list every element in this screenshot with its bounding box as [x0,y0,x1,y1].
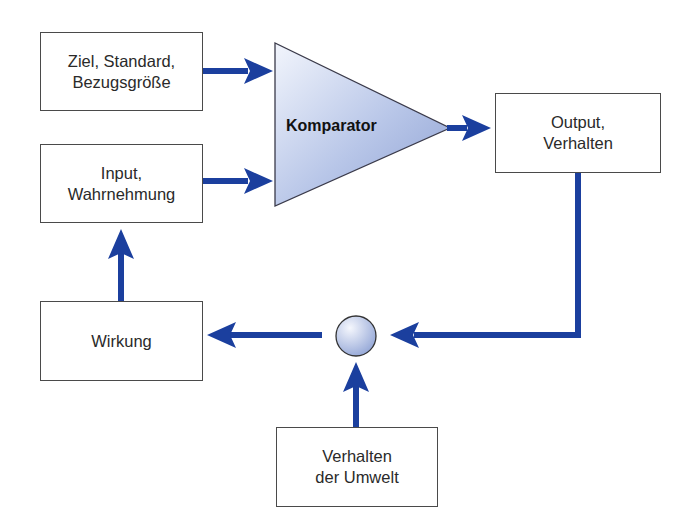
input-box: Input, Wahrnehmung [40,144,203,223]
effect-box: Wirkung [40,301,203,381]
arrow-effect-to-input [108,229,134,301]
output-label: Output, Verhalten [543,112,613,154]
comparator-label: Komparator [286,117,377,135]
arrow-junction-to-effect [207,322,322,348]
junction-node [336,316,376,356]
goal-label: Ziel, Standard, Bezugsgröße [68,51,175,93]
goal-box: Ziel, Standard, Bezugsgröße [40,32,203,111]
arrow-input-to-comparator [202,168,273,194]
environment-label: Verhalten der Umwelt [315,446,398,488]
arrow-goal-to-comparator [202,58,273,84]
arrow-comparator-to-output [447,115,491,141]
arrow-output-to-junction [390,173,581,348]
arrow-environment-to-junction [343,362,369,427]
output-box: Output, Verhalten [495,93,661,173]
input-label: Input, Wahrnehmung [68,163,176,205]
environment-box: Verhalten der Umwelt [276,427,438,507]
effect-label: Wirkung [91,331,152,352]
